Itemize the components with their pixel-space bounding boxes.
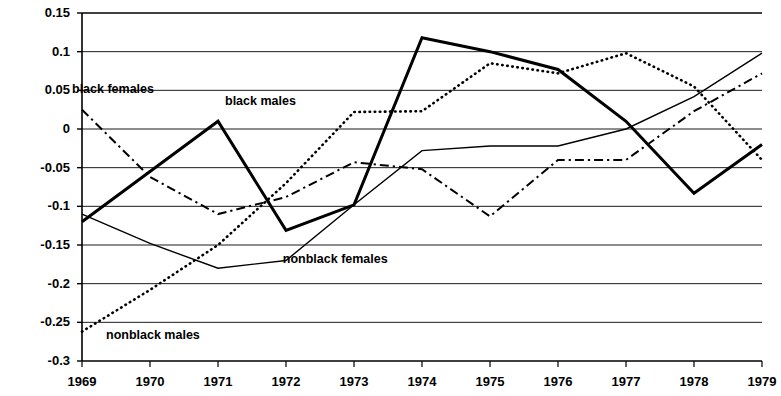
x-axis-label: 1972 (251, 374, 321, 389)
y-axis-label: 0.15 (0, 6, 70, 19)
series-label-nonblack-males: nonblack males (106, 328, 200, 342)
y-axis-label: -0.3 (0, 354, 70, 367)
x-axis-label: 1971 (183, 374, 253, 389)
y-axis-label: -0.25 (0, 315, 70, 328)
series-lines (82, 38, 762, 332)
y-axis-label: 0.1 (0, 45, 70, 58)
x-axis-label: 1974 (387, 374, 457, 389)
series-label-nonblack-females: nonblack females (283, 252, 388, 266)
series-label-black-females: black females (72, 82, 154, 96)
x-axis-label: 1978 (659, 374, 729, 389)
x-axis-label: 1973 (319, 374, 389, 389)
gridlines (77, 13, 762, 361)
series-line-black-males (82, 38, 762, 231)
x-axis-label: 1976 (523, 374, 593, 389)
y-axis-label: -0.2 (0, 277, 70, 290)
x-axis-label: 1977 (591, 374, 661, 389)
y-axis-label: 0 (0, 122, 70, 135)
series-line-nonblack-males (82, 53, 762, 331)
y-axis-label: 0.05 (0, 83, 70, 96)
x-axis-label: 1979 (727, 374, 781, 389)
y-axis-label: -0.1 (0, 199, 70, 212)
x-axis-label: 1970 (115, 374, 185, 389)
y-axis-label: -0.05 (0, 161, 70, 174)
x-axis-label: 1969 (47, 374, 117, 389)
series-label-black-males: black males (225, 94, 296, 108)
series-line-nonblack-females (82, 53, 762, 268)
y-axis-label: -0.15 (0, 238, 70, 251)
x-axis-ticks (82, 361, 762, 367)
x-axis-label: 1975 (455, 374, 525, 389)
